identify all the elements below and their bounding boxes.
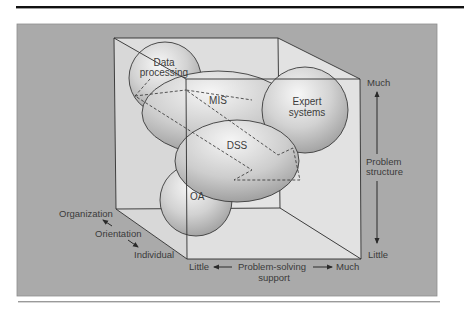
orientation-title: Orientation — [95, 228, 141, 239]
label-dss: DSS — [227, 140, 248, 151]
label-expert-systems-line1: Expert — [293, 96, 322, 107]
sphere-dss — [175, 120, 299, 202]
label-oa: OA — [190, 191, 205, 202]
diagram-figure: Data processing MIS Expert systems DSS O… — [0, 0, 464, 316]
bottom-rule — [18, 301, 440, 302]
top-rule — [16, 6, 464, 8]
problem-solving-support-high-label: Much — [336, 261, 359, 272]
orientation-low-label: Individual — [134, 249, 174, 260]
problem-structure-low-label: Little — [368, 249, 388, 260]
problem-structure-title-line2: structure — [366, 166, 403, 177]
label-data-processing-line2: processing — [140, 67, 188, 78]
problem-structure-high-label: Much — [367, 77, 390, 88]
problem-solving-support-title-line2: support — [258, 272, 290, 283]
problem-solving-support-low-label: Little — [189, 261, 209, 272]
label-expert-systems-line2: systems — [289, 107, 326, 118]
label-mis: MIS — [209, 95, 227, 106]
orientation-high-label: Organization — [59, 208, 113, 219]
problem-solving-support-title-line1: Problem-solving — [238, 261, 306, 272]
